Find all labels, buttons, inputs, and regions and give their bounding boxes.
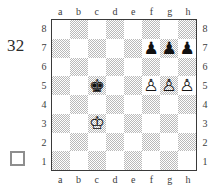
board-square-b6[interactable] xyxy=(70,58,88,77)
board-square-g4[interactable] xyxy=(160,95,178,114)
board-square-b2[interactable] xyxy=(70,133,88,152)
board-square-f3[interactable] xyxy=(142,114,160,133)
board-square-h6[interactable] xyxy=(178,58,196,77)
board-square-b7[interactable] xyxy=(70,39,88,58)
white-square-icon xyxy=(10,151,25,166)
board-square-a6[interactable] xyxy=(52,58,70,77)
board-square-d5[interactable] xyxy=(106,76,124,95)
board-square-c2[interactable] xyxy=(88,133,106,152)
board-square-h5[interactable]: ♙ xyxy=(178,76,196,95)
board-square-c1[interactable] xyxy=(88,151,106,170)
board-square-e2[interactable] xyxy=(124,133,142,152)
board-square-a8[interactable] xyxy=(52,20,70,39)
board-square-a3[interactable] xyxy=(52,114,70,133)
board-square-h3[interactable] xyxy=(178,114,196,133)
board-square-b4[interactable] xyxy=(70,95,88,114)
file-label-d: d xyxy=(106,6,124,17)
board-square-e3[interactable] xyxy=(124,114,142,133)
board-square-e1[interactable] xyxy=(124,151,142,170)
board-square-e5[interactable] xyxy=(124,76,142,95)
file-label-f: f xyxy=(142,6,160,17)
board-square-g7[interactable]: ♟ xyxy=(160,39,178,58)
file-labels-top: abcdefgh xyxy=(51,6,197,17)
board-square-h7[interactable]: ♟ xyxy=(178,39,196,58)
board-square-f1[interactable] xyxy=(142,151,160,170)
rank-label-1: 1 xyxy=(199,152,211,171)
board-square-b3[interactable] xyxy=(70,114,88,133)
board-square-f6[interactable] xyxy=(142,58,160,77)
file-label-a: a xyxy=(51,174,69,185)
board-square-a4[interactable] xyxy=(52,95,70,114)
rank-label-4: 4 xyxy=(199,95,211,114)
board-square-g5[interactable]: ♙ xyxy=(160,76,178,95)
board-square-h1[interactable] xyxy=(178,151,196,170)
rank-label-2: 2 xyxy=(38,133,50,152)
rank-labels-right: 87654321 xyxy=(199,19,211,171)
black-pawn-f7: ♟ xyxy=(143,40,158,57)
board-square-h2[interactable] xyxy=(178,133,196,152)
rank-label-3: 3 xyxy=(38,114,50,133)
board-square-e4[interactable] xyxy=(124,95,142,114)
file-label-g: g xyxy=(161,174,179,185)
white-pawn-h5: ♙ xyxy=(179,77,194,94)
board-square-d4[interactable] xyxy=(106,95,124,114)
board-square-e6[interactable] xyxy=(124,58,142,77)
board-square-d6[interactable] xyxy=(106,58,124,77)
board-square-d3[interactable] xyxy=(106,114,124,133)
board-square-a2[interactable] xyxy=(52,133,70,152)
board-square-e7[interactable] xyxy=(124,39,142,58)
board-square-e8[interactable] xyxy=(124,20,142,39)
board-square-a1[interactable] xyxy=(52,151,70,170)
board-square-d1[interactable] xyxy=(106,151,124,170)
file-label-a: a xyxy=(51,6,69,17)
board-square-c5[interactable]: ♚ xyxy=(88,76,106,95)
file-label-g: g xyxy=(161,6,179,17)
white-pawn-g5: ♙ xyxy=(161,77,176,94)
board-square-f8[interactable] xyxy=(142,20,160,39)
board-square-c8[interactable] xyxy=(88,20,106,39)
file-label-h: h xyxy=(179,6,197,17)
board-square-d2[interactable] xyxy=(106,133,124,152)
chess-diagram-page: { "diagram": { "move_number": "32", "sid… xyxy=(0,0,219,190)
black-pawn-h7: ♟ xyxy=(179,40,194,57)
board-square-a7[interactable] xyxy=(52,39,70,58)
rank-label-4: 4 xyxy=(38,95,50,114)
rank-label-5: 5 xyxy=(199,76,211,95)
board-square-b1[interactable] xyxy=(70,151,88,170)
rank-label-8: 8 xyxy=(199,19,211,38)
board-square-f5[interactable]: ♙ xyxy=(142,76,160,95)
board-square-d8[interactable] xyxy=(106,20,124,39)
board-square-c6[interactable] xyxy=(88,58,106,77)
board-square-g2[interactable] xyxy=(160,133,178,152)
board-square-c4[interactable] xyxy=(88,95,106,114)
rank-label-6: 6 xyxy=(38,57,50,76)
board-square-b8[interactable] xyxy=(70,20,88,39)
board-square-h4[interactable] xyxy=(178,95,196,114)
rank-label-3: 3 xyxy=(199,114,211,133)
rank-label-2: 2 xyxy=(199,133,211,152)
board-square-g3[interactable] xyxy=(160,114,178,133)
file-label-d: d xyxy=(106,174,124,185)
file-labels-bottom: abcdefgh xyxy=(51,174,197,185)
board-square-h8[interactable] xyxy=(178,20,196,39)
board-square-g1[interactable] xyxy=(160,151,178,170)
board-square-c7[interactable] xyxy=(88,39,106,58)
rank-label-1: 1 xyxy=(38,152,50,171)
black-king-c5: ♚ xyxy=(89,77,105,95)
board-square-a5[interactable] xyxy=(52,76,70,95)
board-square-f7[interactable]: ♟ xyxy=(142,39,160,58)
board-square-g6[interactable] xyxy=(160,58,178,77)
rank-label-7: 7 xyxy=(199,38,211,57)
rank-label-6: 6 xyxy=(199,57,211,76)
board-square-f2[interactable] xyxy=(142,133,160,152)
board-square-g8[interactable] xyxy=(160,20,178,39)
board-square-c3[interactable]: ♔ xyxy=(88,114,106,133)
file-label-c: c xyxy=(88,174,106,185)
chess-board[interactable]: ♟♟♟♚♙♙♙♔ xyxy=(51,19,197,171)
board-square-d7[interactable] xyxy=(106,39,124,58)
board-square-f4[interactable] xyxy=(142,95,160,114)
file-label-c: c xyxy=(88,6,106,17)
file-label-b: b xyxy=(69,6,87,17)
board-square-b5[interactable] xyxy=(70,76,88,95)
rank-labels-left: 87654321 xyxy=(38,19,50,171)
